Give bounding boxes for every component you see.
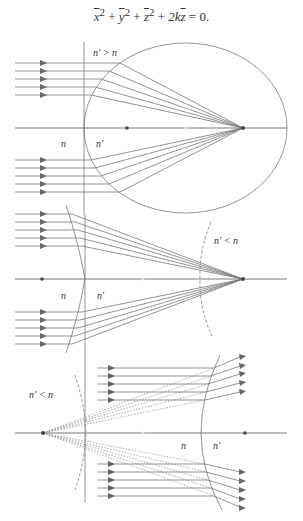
arrow-icons — [239, 354, 246, 395]
medium-label-right: n' — [97, 290, 105, 301]
medium-label-right: n' — [213, 440, 221, 451]
virtual-rays-upper — [43, 368, 214, 433]
center-dot — [141, 431, 144, 434]
medium-label-right: n' — [96, 138, 104, 149]
focus-dot — [241, 126, 245, 130]
refracted-rays-upper — [72, 214, 243, 279]
left-dot — [40, 277, 44, 281]
incoming-rays-lower — [15, 160, 120, 192]
hyperbola-surface — [201, 355, 222, 510]
refraction-diagram: n' > n n n' n' < n n n' n' < n n n' — [0, 0, 303, 521]
arrow-icons — [239, 469, 246, 511]
incoming-rays-upper — [15, 214, 82, 246]
virtual-rays-lower — [43, 433, 214, 496]
arrow-icons — [40, 157, 47, 195]
arrow-icons — [108, 365, 115, 403]
medium-label-left: n — [61, 138, 66, 149]
center-dot — [184, 126, 187, 129]
dashed-conjugate-surface — [75, 375, 86, 490]
arrow-icons — [40, 309, 47, 347]
arrow-icons — [108, 461, 115, 499]
right-dot — [243, 431, 247, 435]
panel-ellipse — [15, 42, 287, 215]
refracted-rays-upper — [91, 63, 243, 128]
incoming-rays-upper — [15, 63, 120, 95]
focus-dot — [241, 277, 245, 281]
arrow-icons — [40, 211, 47, 249]
vertex-dot — [125, 126, 129, 130]
outgoing-rays-lower — [205, 464, 240, 507]
medium-label-left: n — [61, 290, 66, 301]
medium-label-left: n — [181, 440, 186, 451]
condition-label: n' < n — [29, 389, 53, 400]
incoming-rays-lower — [15, 312, 82, 344]
panel-hyperbola-virtual — [15, 354, 287, 511]
center-dot — [141, 277, 144, 280]
arrow-icons — [40, 60, 47, 98]
virtual-focus-dot — [41, 431, 45, 435]
refracted-rays-lower — [72, 279, 243, 344]
refracted-rays-lower — [91, 128, 243, 192]
condition-label: n' < n — [214, 235, 238, 246]
condition-label: n' > n — [93, 47, 117, 58]
panel-hyperbola-real — [15, 205, 287, 503]
